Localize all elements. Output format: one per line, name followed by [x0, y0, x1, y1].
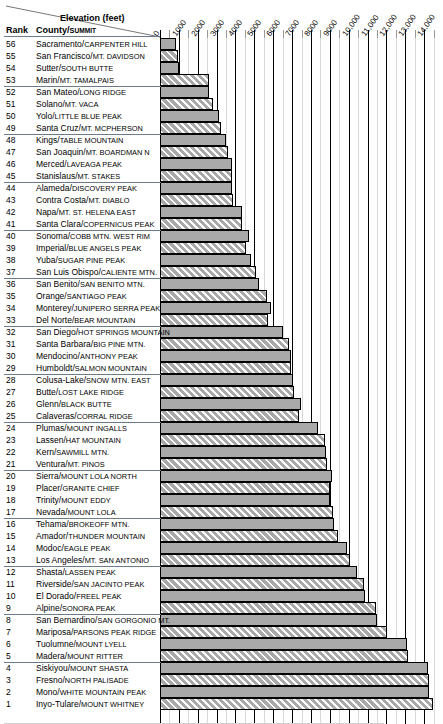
table-row[interactable]: 31Santa Barbara/BIG PINE MTN.: [0, 338, 443, 350]
table-row[interactable]: 48Kings/TABLE MOUNTAIN: [0, 134, 443, 146]
row-rank: 4: [6, 663, 28, 674]
table-row[interactable]: 29Humboldt/SALMON MOUNTAIN: [0, 362, 443, 374]
row-summit: SALMON MOUNTAIN: [75, 364, 147, 373]
table-row[interactable]: 35Orange/SANTIAGO PEAK: [0, 290, 443, 302]
table-row[interactable]: 8San Bernardino/SAN GORGONIO MT.: [0, 614, 443, 626]
table-row[interactable]: 53Marin/MT. TAMALPAIS: [0, 74, 443, 86]
row-county-summit: Sacramento/CARPENTER HILL: [36, 39, 147, 50]
table-row[interactable]: 5Madera/MOUNT RITTER: [0, 650, 443, 662]
table-row[interactable]: 37San Luis Obispo/CALIENTE MTN.: [0, 266, 443, 278]
table-row[interactable]: 3Fresno/NORTH PALISADE: [0, 674, 443, 686]
table-row[interactable]: 25Calaveras/CORRAL RIDGE: [0, 410, 443, 422]
table-row[interactable]: 49Santa Cruz/MT. MCPHERSON: [0, 122, 443, 134]
table-row[interactable]: 44Alameda/DISCOVERY PEAK: [0, 182, 443, 194]
tick-mark: [188, 30, 189, 38]
row-rank: 38: [6, 255, 28, 266]
table-row[interactable]: 21Ventura/MT. PINOS: [0, 458, 443, 470]
row-county-summit: Siskiyou/MOUNT SHASTA: [36, 663, 128, 674]
table-row[interactable]: 56Sacramento/CARPENTER HILL: [0, 38, 443, 50]
table-row[interactable]: 55San Francisco/MT. DAVIDSON: [0, 50, 443, 62]
row-county-summit: Orange/SANTIAGO PEAK: [36, 291, 127, 302]
table-row[interactable]: 27Butte/LOST LAKE RIDGE: [0, 386, 443, 398]
table-row[interactable]: 42Napa/MT. ST. HELENA EAST: [0, 206, 443, 218]
row-rank: 1: [6, 699, 28, 710]
table-row[interactable]: 26Glenn/BLACK BUTTE: [0, 398, 443, 410]
table-row[interactable]: 18Trinity/MOUNT EDDY: [0, 494, 443, 506]
tick-mark: [320, 30, 321, 38]
tick-mark: [377, 30, 378, 38]
table-row[interactable]: 41Santa Clara/COPERNICUS PEAK: [0, 218, 443, 230]
table-row[interactable]: 34Monterey/JUNIPERO SERRA PEAK: [0, 302, 443, 314]
row-rank: 37: [6, 267, 28, 278]
row-rank: 35: [6, 291, 28, 302]
table-row[interactable]: 9Alpine/SONORA PEAK: [0, 602, 443, 614]
table-row[interactable]: 33Del Norte/BEAR MOUNTAIN: [0, 314, 443, 326]
row-county-summit: Modoc/EAGLE PEAK: [36, 543, 110, 554]
row-rank: 36: [6, 279, 28, 290]
row-rank: 22: [6, 447, 28, 458]
table-row[interactable]: 45Stanislaus/MT. STAKES: [0, 170, 443, 182]
table-row[interactable]: 46Merced/LAVEAGA PEAK: [0, 158, 443, 170]
table-row[interactable]: 13Los Angeles/MT. SAN ANTONIO: [0, 554, 443, 566]
row-rank: 23: [6, 435, 28, 446]
tick-mark: [311, 30, 312, 38]
row-rank: 46: [6, 159, 28, 170]
row-county: Santa Barbara: [36, 339, 91, 349]
table-row[interactable]: 23Lassen/HAT MOUNTAIN: [0, 434, 443, 446]
table-row[interactable]: 36San Benito/SAN BENITO MTN.: [0, 278, 443, 290]
row-county: Sutter: [36, 63, 59, 73]
table-row[interactable]: 10El Dorado/FREEL PEAK: [0, 590, 443, 602]
table-row[interactable]: 7Mariposa/PARSONS PEAK RIDGE: [0, 626, 443, 638]
table-row[interactable]: 2Mono/WHITE MOUNTAIN PEAK: [0, 686, 443, 698]
row-county-summit: Nevada/MOUNT LOLA: [36, 507, 116, 518]
row-summit: MT. BOARDMAN N: [86, 148, 150, 157]
row-county-summit: Napa/MT. ST. HELENA EAST: [36, 207, 136, 218]
row-county-summit: Marin/MT. TAMALPAIS: [36, 75, 114, 86]
table-row[interactable]: 15Amador/THUNDER MOUNTAIN: [0, 530, 443, 542]
row-rank: 6: [6, 639, 28, 650]
table-row[interactable]: 16Tehama/BROKEOFF MTN.: [0, 518, 443, 530]
row-rank: 32: [6, 327, 28, 338]
table-row[interactable]: 38Yuba/SUGAR PINE PEAK: [0, 254, 443, 266]
table-row[interactable]: 6Tuolumne/MOUNT LYELL: [0, 638, 443, 650]
table-row[interactable]: 17Nevada/MOUNT LOLA: [0, 506, 443, 518]
table-row[interactable]: 12Shasta/LASSEN PEAK: [0, 566, 443, 578]
table-row[interactable]: 40Sonoma/COBB MTN. WEST RIM: [0, 230, 443, 242]
table-row[interactable]: 4Siskiyou/MOUNT SHASTA: [0, 662, 443, 674]
row-county-summit: Placer/GRANITE CHIEF: [36, 483, 120, 494]
row-county-summit: San Luis Obispo/CALIENTE MTN.: [36, 267, 157, 278]
table-row[interactable]: 20Sierra/MOUNT LOLA NORTH: [0, 470, 443, 482]
table-row[interactable]: 14Modoc/EAGLE PEAK: [0, 542, 443, 554]
table-row[interactable]: 54Sutter/SOUTH BUTTE: [0, 62, 443, 74]
tick-mark: [198, 30, 199, 38]
row-rank: 14: [6, 543, 28, 554]
table-row[interactable]: 39Imperial/BLUE ANGELS PEAK: [0, 242, 443, 254]
table-row[interactable]: 52San Mateo/LONG RIDGE: [0, 86, 443, 98]
table-row[interactable]: 24Plumas/MOUNT INGALLS: [0, 422, 443, 434]
table-row[interactable]: 32San Diego/HOT SPRINGS MOUNTAIN: [0, 326, 443, 338]
table-row[interactable]: 19Placer/GRANITE CHIEF: [0, 482, 443, 494]
row-county-summit: Kern/SAWMILL MTN.: [36, 447, 109, 458]
row-county-summit: Mendocino/ANTHONY PEAK: [36, 351, 138, 362]
row-summit: MOUNT EDDY: [61, 496, 111, 505]
table-row[interactable]: 1Inyo-Tulare/MOUNT WHITNEY: [0, 698, 443, 710]
table-row[interactable]: 43Contra Costa/MT. DIABLO: [0, 194, 443, 206]
row-county: Santa Clara: [36, 219, 81, 229]
table-row[interactable]: 22Kern/SAWMILL MTN.: [0, 446, 443, 458]
row-summit: MT. ST. HELENA EAST: [59, 208, 136, 217]
table-row[interactable]: 47San Joaquin/MT. BOARDMAN N: [0, 146, 443, 158]
row-county: San Francisco: [36, 51, 90, 61]
row-summit: SONORA PEAK: [62, 604, 115, 613]
table-row[interactable]: 50Yolo/LITTLE BLUE PEAK: [0, 110, 443, 122]
table-row[interactable]: 51Solano/MT. VACA: [0, 98, 443, 110]
row-rank: 9: [6, 603, 28, 614]
row-county-summit: Del Norte/BEAR MOUNTAIN: [36, 315, 135, 326]
row-county: Sierra: [36, 471, 59, 481]
row-county: Santa Cruz: [36, 123, 79, 133]
table-row[interactable]: 11Riverside/SAN JACINTO PEAK: [0, 578, 443, 590]
row-county: Contra Costa: [36, 195, 86, 205]
table-row[interactable]: 28Colusa-Lake/SNOW MTN. EAST: [0, 374, 443, 386]
row-rank: 34: [6, 303, 28, 314]
row-county-summit: Plumas/MOUNT INGALLS: [36, 423, 127, 434]
table-row[interactable]: 30Mendocino/ANTHONY PEAK: [0, 350, 443, 362]
